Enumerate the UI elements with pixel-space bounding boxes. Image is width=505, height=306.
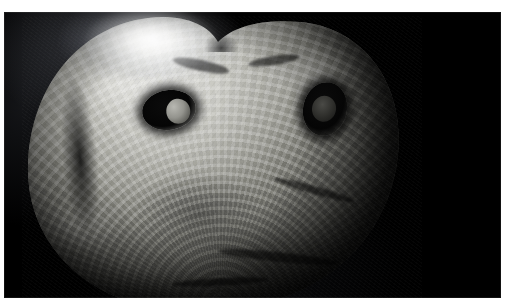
clipped-caption-strip xyxy=(0,0,505,11)
perforation-left xyxy=(139,86,198,133)
caption-clip xyxy=(0,0,505,3)
page-root xyxy=(0,0,505,306)
photo-frame xyxy=(4,12,501,298)
specimen-object xyxy=(22,16,422,298)
specimen-body xyxy=(22,16,422,298)
